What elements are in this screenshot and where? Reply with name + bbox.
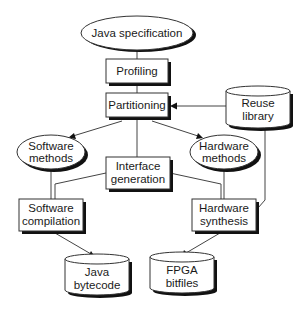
node-hardware-methods: Hardware methods [190,135,261,172]
node-label-line1: Hardware [199,202,249,214]
edge-reuse-hwsynth [258,129,265,208]
node-partitioning: Partitioning [106,93,171,120]
arrowhead [196,133,203,139]
node-java-specification: Java specification [81,16,196,52]
edge-swcomp-bytecode [55,233,91,254]
node-label-line1: Interface [116,160,161,172]
node-label-line1: Hardware [199,140,249,152]
node-label-line2: bytecode [74,279,121,291]
node-label-line1: Software [28,202,73,214]
arrowhead [170,103,177,110]
edge-hwsynth-fpga [186,233,220,253]
edge-interface-hwsynth [170,173,221,199]
edge-partitioning-swmethods [73,121,122,136]
node-label-line1: FPGA [166,264,198,276]
node-label-line1: Software [28,140,73,152]
codesign-flow-diagram: Java specification Profiling Partitionin… [0,0,305,315]
node-reuse-library: Reuse library [226,86,293,131]
node-label-line1: Reuse [241,97,274,109]
node-label: Java specification [92,27,183,39]
node-interface-generation: Interface generation [106,157,173,192]
node-hardware-synthesis: Hardware synthesis [192,199,259,234]
node-software-methods: Software methods [17,135,88,172]
edge-partitioning-hwmethods [152,121,198,136]
node-label: Partitioning [108,99,166,111]
node-label-line1: Java [85,266,110,278]
node-label-line2: methods [202,152,246,164]
node-label-line2: synthesis [200,215,248,227]
node-label-line2: generation [111,173,165,185]
node-label-line2: library [242,110,274,122]
node-java-bytecode: Java bytecode [65,254,132,298]
node-label-line2: methods [29,152,73,164]
node-label-line2: compilation [22,215,80,227]
node-fpga-bitfiles: FPGA bitfiles [150,252,217,296]
edge-interface-swcomp [55,173,106,199]
node-profiling: Profiling [106,59,171,86]
node-software-compilation: Software compilation [19,199,86,234]
node-label-line2: bitfiles [166,277,199,289]
node-label: Profiling [116,65,158,77]
